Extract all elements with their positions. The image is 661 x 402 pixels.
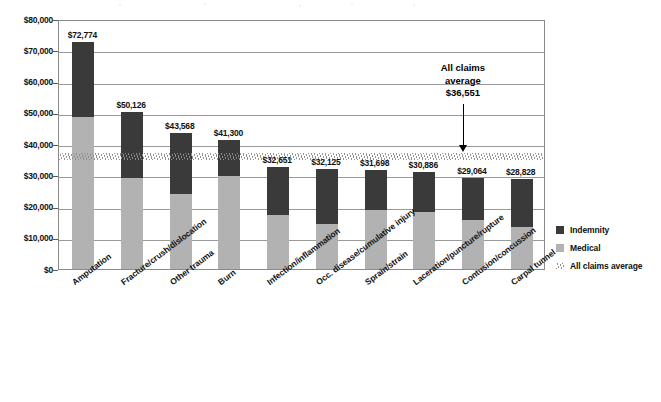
annotation-line-2: average bbox=[408, 75, 518, 88]
y-axis-tick-label: $10,000 bbox=[0, 233, 53, 243]
bar-segment-medical bbox=[267, 215, 289, 269]
bar-sprain-strain bbox=[365, 170, 387, 269]
bar-segment-indemnity bbox=[267, 167, 289, 215]
legend-item-indemnity: Indemnity bbox=[556, 222, 642, 238]
bar-infection-inflammation bbox=[267, 167, 289, 269]
y-axis-tick-label: $50,000 bbox=[0, 108, 53, 118]
y-axis-tick-label: $0 bbox=[0, 265, 53, 275]
bar-value-label: $50,126 bbox=[101, 100, 161, 110]
legend-swatch-medical bbox=[556, 244, 564, 252]
bar-segment-medical bbox=[218, 176, 240, 269]
x-axis-label-burn: Burn bbox=[216, 267, 238, 287]
bar-segment-indemnity bbox=[511, 179, 533, 227]
y-axis-tick-mark bbox=[52, 270, 58, 271]
y-axis-tick-label: $20,000 bbox=[0, 202, 53, 212]
annotation-line-1: All claims bbox=[408, 62, 518, 75]
bar-segment-indemnity bbox=[365, 170, 387, 210]
legend-label-medical: Medical bbox=[570, 243, 600, 253]
bar-segment-medical bbox=[413, 212, 435, 269]
bar-segment-indemnity bbox=[72, 42, 94, 118]
y-axis-tick-label: $80,000 bbox=[0, 15, 53, 25]
bar-segment-indemnity bbox=[413, 172, 435, 211]
legend-swatch-all-claims-average bbox=[556, 263, 564, 269]
bar-fracture-crush-dislocation bbox=[121, 112, 143, 269]
legend-item-all-claims-average: All claims average bbox=[556, 258, 642, 274]
y-axis-tick-label: $40,000 bbox=[0, 140, 53, 150]
gridline bbox=[59, 52, 544, 53]
bar-segment-indemnity bbox=[170, 133, 192, 194]
legend-item-medical: Medical bbox=[556, 240, 642, 256]
annotation-arrow-head bbox=[459, 145, 467, 152]
y-axis-tick-label: $60,000 bbox=[0, 77, 53, 87]
legend-label-all-claims-average: All claims average bbox=[570, 261, 642, 271]
bar-carpal-tunnel bbox=[511, 179, 533, 269]
bar-value-label: $41,300 bbox=[198, 128, 258, 138]
bar-value-label: $72,774 bbox=[52, 30, 112, 40]
average-annotation: All claims average $36,551 bbox=[408, 62, 518, 100]
bar-segment-medical bbox=[72, 117, 94, 269]
y-axis-tick-label: $30,000 bbox=[0, 171, 53, 181]
bar-segment-indemnity bbox=[121, 112, 143, 177]
annotation-line-3: $36,551 bbox=[408, 87, 518, 100]
legend-swatch-indemnity bbox=[556, 226, 564, 234]
bar-value-label: $28,828 bbox=[491, 167, 551, 177]
y-axis-tick-label: $70,000 bbox=[0, 46, 53, 56]
annotation-arrow-shaft bbox=[463, 104, 464, 145]
bar-contusion-concussion bbox=[462, 178, 484, 269]
bar-occ-disease-cumulative-injury bbox=[316, 169, 338, 269]
legend-label-indemnity: Indemnity bbox=[570, 225, 609, 235]
bar-segment-medical bbox=[121, 178, 143, 269]
stacked-bar-chart: $0$10,000$20,000$30,000$40,000$50,000$60… bbox=[0, 0, 661, 402]
bar-segment-indemnity bbox=[462, 178, 484, 220]
scan-artifact bbox=[0, 2, 661, 8]
legend: Indemnity Medical All claims average bbox=[556, 222, 642, 276]
bar-laceration-puncture-rupture bbox=[413, 172, 435, 269]
bar-segment-indemnity bbox=[316, 169, 338, 225]
